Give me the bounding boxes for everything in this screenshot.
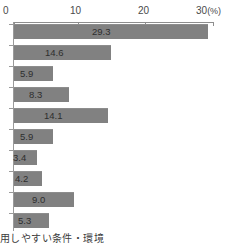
y-axis-tick-1 (9, 45, 13, 46)
y-axis-tick-2 (9, 66, 13, 67)
x-axis-line (14, 22, 213, 23)
y-axis-tick-9 (9, 213, 13, 214)
chart-caption: 用しやすい条件・環境 (0, 233, 104, 245)
bar-value-3: 8.3 (29, 88, 42, 101)
y-axis-tick-0 (9, 24, 13, 25)
bar-value-5: 5.9 (20, 130, 33, 143)
y-axis-tick-8 (9, 192, 13, 193)
x-axis-unit: (%) (207, 6, 221, 16)
x-axis-label-30-value: 30 (196, 5, 207, 16)
x-axis-label-0: 0 (3, 5, 9, 16)
bar-value-9: 5.3 (18, 214, 31, 227)
y-axis-tick-3 (9, 87, 13, 88)
bar-value-2: 5.9 (20, 67, 33, 80)
y-axis-tick-5 (9, 129, 13, 130)
x-axis-label-20: 20 (138, 5, 149, 16)
x-axis-label-10: 10 (70, 5, 81, 16)
y-axis-tick-4 (9, 108, 13, 109)
bar-value-6: 3.4 (13, 151, 26, 164)
bar-0 (14, 24, 208, 39)
bar-value-1: 14.6 (45, 46, 64, 59)
y-axis-tick-7 (9, 171, 13, 172)
x-axis-label-30: 30(%) (196, 5, 221, 17)
bar-value-0: 29.3 (92, 25, 111, 38)
x-axis-tick-30 (213, 22, 214, 26)
bar-value-7: 4.2 (15, 172, 28, 185)
bar-value-8: 9.0 (32, 193, 45, 206)
bar-chart: 0 10 20 30(%) 29.3 14.6 5.9 8.3 14.1 5.9… (0, 0, 239, 245)
bar-value-4: 14.1 (44, 109, 63, 122)
